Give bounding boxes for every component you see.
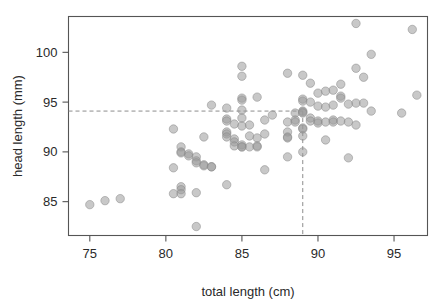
data-point (238, 96, 246, 104)
x-tick-label: 85 (235, 246, 249, 261)
plot-canvas: 7580859095 859095100 total length (cm) h… (0, 0, 439, 304)
data-point (352, 64, 360, 72)
data-point (169, 164, 177, 172)
data-point (230, 142, 238, 150)
data-point (238, 143, 246, 151)
data-point (192, 159, 200, 167)
data-point (245, 132, 253, 140)
data-point (177, 189, 185, 197)
data-point (352, 99, 360, 107)
data-point (283, 118, 291, 126)
x-axis-title: total length (cm) (201, 284, 294, 299)
data-point (352, 121, 360, 129)
data-point (207, 163, 215, 171)
data-point (344, 154, 352, 162)
y-tick-label: 90 (43, 144, 57, 159)
data-point (291, 118, 299, 126)
data-point (245, 121, 253, 129)
data-point (238, 72, 246, 80)
data-point (337, 117, 345, 125)
data-point (223, 117, 231, 125)
data-point (408, 25, 416, 33)
data-point (337, 80, 345, 88)
data-point (261, 130, 269, 138)
data-point (261, 166, 269, 174)
data-point (253, 143, 261, 151)
data-point (344, 118, 352, 126)
data-point (238, 106, 246, 114)
data-point (299, 97, 307, 105)
data-point (321, 103, 329, 111)
data-point (268, 111, 276, 119)
data-point (413, 91, 421, 99)
data-point (253, 93, 261, 101)
data-point (352, 19, 360, 27)
data-point (306, 117, 314, 125)
data-point (184, 152, 192, 160)
data-point (177, 149, 185, 157)
y-tick-label: 100 (36, 45, 58, 60)
data-point (86, 200, 94, 208)
y-tick-label: 95 (43, 95, 57, 110)
y-tick-label: 85 (43, 194, 57, 209)
data-point (299, 132, 307, 140)
scatter-plot-figure: 7580859095 859095100 total length (cm) h… (0, 0, 439, 304)
data-point (283, 153, 291, 161)
y-axis-title: head length (mm) (10, 75, 25, 177)
data-point (238, 62, 246, 70)
data-point (314, 119, 322, 127)
data-point (223, 104, 231, 112)
data-point (200, 133, 208, 141)
data-point (245, 143, 253, 151)
data-point (299, 71, 307, 79)
data-point (306, 79, 314, 87)
x-tick-label: 90 (311, 246, 325, 261)
x-tick-label: 75 (83, 246, 97, 261)
data-point (230, 120, 238, 128)
data-point (337, 94, 345, 102)
data-point (367, 107, 375, 115)
data-point (261, 116, 269, 124)
data-point (321, 136, 329, 144)
data-point (359, 99, 367, 107)
data-point (238, 122, 246, 130)
data-point (321, 87, 329, 95)
data-point (101, 196, 109, 204)
data-point (359, 73, 367, 81)
data-point (329, 86, 337, 94)
data-point (283, 69, 291, 77)
data-point (314, 102, 322, 110)
data-point (223, 133, 231, 141)
data-point (169, 189, 177, 197)
data-point (344, 100, 352, 108)
data-point (253, 134, 261, 142)
data-point (192, 188, 200, 196)
data-point (283, 134, 291, 142)
data-point (367, 50, 375, 58)
data-point (207, 101, 215, 109)
data-point (299, 148, 307, 156)
x-tick-label: 80 (159, 246, 173, 261)
x-tick-label: 95 (387, 246, 401, 261)
data-point (192, 222, 200, 230)
data-point (238, 114, 246, 122)
data-point (299, 109, 307, 117)
data-point (397, 109, 405, 117)
data-point (314, 89, 322, 97)
data-point (169, 125, 177, 133)
data-point (200, 162, 208, 170)
data-point (116, 194, 124, 202)
data-point (306, 98, 314, 106)
data-point (223, 181, 231, 189)
data-point (329, 118, 337, 126)
data-point (329, 101, 337, 109)
data-point (321, 118, 329, 126)
